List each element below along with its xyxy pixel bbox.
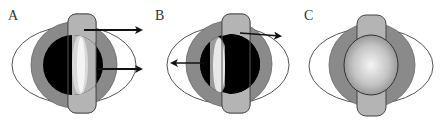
figure: A B C: [0, 0, 443, 129]
panel-a: [12, 14, 141, 113]
sphere: [43, 35, 103, 95]
gradient-sphere: [344, 35, 398, 95]
diagram-canvas: [0, 0, 443, 129]
panel-b: [167, 14, 289, 113]
panel-c: [309, 15, 433, 116]
